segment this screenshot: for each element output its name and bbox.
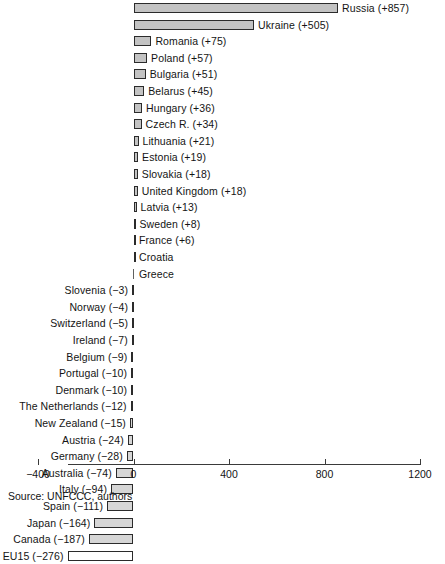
bar-row: Greece	[0, 266, 445, 283]
bar	[131, 401, 134, 411]
bar-label: Ireland (−7)	[73, 332, 128, 349]
bar	[134, 202, 137, 212]
bar-row: New Zealand (−15)	[0, 415, 445, 432]
bar	[134, 36, 152, 46]
bar-label: Hungary (+36)	[146, 100, 215, 117]
bar-label: Greece	[139, 266, 174, 283]
bar-label: Russia (+857)	[342, 0, 409, 17]
bar-row: Poland (+57)	[0, 50, 445, 67]
bar	[134, 20, 255, 30]
bar	[134, 186, 138, 196]
bar-label: The Netherlands (−12)	[19, 398, 126, 415]
bar	[89, 534, 134, 544]
bar-row: Slovakia (+18)	[0, 166, 445, 183]
plot-area: Russia (+857)Ukraine (+505)Romania (+75)…	[0, 0, 445, 460]
x-axis-tick-label: 1200	[408, 467, 431, 481]
bar-row: Russia (+857)	[0, 0, 445, 17]
bar	[132, 285, 134, 295]
bar-label: Estonia (+19)	[142, 149, 206, 166]
bar-row: Belarus (+45)	[0, 83, 445, 100]
bar	[134, 252, 136, 262]
bar-row: Estonia (+19)	[0, 149, 445, 166]
source-note: Source: UNFCCC, authors	[8, 489, 132, 503]
bar-row: Ukraine (+505)	[0, 17, 445, 34]
x-axis-line	[68, 464, 420, 465]
bar-label: Slovakia (+18)	[142, 166, 211, 183]
bar	[131, 385, 133, 395]
bar-label: Sweden (+8)	[139, 216, 200, 233]
bar-row: Belgium (−9)	[0, 349, 445, 366]
bar	[134, 86, 145, 96]
bar	[134, 152, 139, 162]
bar-row: France (+6)	[0, 232, 445, 249]
bar-label: Poland (+57)	[151, 50, 213, 67]
x-axis-tick	[325, 459, 326, 465]
bar-row: Norway (−4)	[0, 299, 445, 316]
bar-label: Norway (−4)	[69, 299, 128, 316]
bar	[134, 53, 148, 63]
bar	[134, 235, 136, 245]
bar	[134, 219, 136, 229]
bar-label: Canada (−187)	[13, 531, 85, 548]
bar-row: The Netherlands (−12)	[0, 398, 445, 415]
bar-row: Austria (−24)	[0, 432, 445, 449]
x-axis-tick-label: 0	[131, 467, 137, 481]
bar-row: Denmark (−10)	[0, 382, 445, 399]
bar-label: Belarus (+45)	[148, 83, 213, 100]
bar-label: Lithuania (+21)	[143, 133, 215, 150]
bar	[130, 418, 134, 428]
bar-row: Canada (−187)	[0, 531, 445, 548]
x-axis-tick-label: −400	[26, 467, 50, 481]
bar-row: Latvia (+13)	[0, 199, 445, 216]
bar-row: Slovenia (−3)	[0, 282, 445, 299]
bar-row: EU15 (−276)	[0, 548, 445, 564]
bar-row: Hungary (+36)	[0, 100, 445, 117]
bar-label: Switzerland (−5)	[50, 315, 128, 332]
bar-label: France (+6)	[139, 232, 195, 249]
bar-label: Romania (+75)	[155, 33, 226, 50]
bar	[134, 69, 146, 79]
bar-row: Portugal (−10)	[0, 365, 445, 382]
x-axis-tick	[38, 459, 39, 465]
bar-label: Bulgaria (+51)	[150, 66, 218, 83]
bar-row: Bulgaria (+51)	[0, 66, 445, 83]
bar	[134, 119, 142, 129]
bar	[132, 318, 134, 328]
bar	[133, 269, 135, 279]
bar	[134, 3, 339, 13]
bar-row: Sweden (+8)	[0, 216, 445, 233]
bar-row: Lithuania (+21)	[0, 133, 445, 150]
bar-label: Ukraine (+505)	[258, 17, 329, 34]
bar-label: Slovenia (−3)	[65, 282, 128, 299]
bar-label: Latvia (+13)	[141, 199, 198, 216]
bar	[128, 435, 134, 445]
x-axis-tick	[229, 459, 230, 465]
bar-label: EU15 (−276)	[3, 548, 64, 564]
bar	[132, 302, 134, 312]
bar-label: Denmark (−10)	[56, 382, 128, 399]
bar	[134, 103, 143, 113]
bar-label: Belgium (−9)	[66, 349, 127, 366]
x-axis-tick	[134, 459, 135, 465]
bar-label: Austria (−24)	[62, 432, 124, 449]
bar-row: Japan (−164)	[0, 515, 445, 532]
x-axis-tick-label: 800	[316, 467, 334, 481]
bar-row: Croatia	[0, 249, 445, 266]
bar-label: Japan (−164)	[27, 515, 90, 532]
bar	[94, 518, 133, 528]
bar	[134, 169, 138, 179]
bar	[131, 352, 133, 362]
bar	[131, 368, 133, 378]
bar-label: Portugal (−10)	[59, 365, 127, 382]
bar-label: New Zealand (−15)	[35, 415, 126, 432]
bar-row: Czech R. (+34)	[0, 116, 445, 133]
bar-label: Croatia	[139, 249, 174, 266]
x-axis-tick-label: 400	[220, 467, 238, 481]
bar-row: United Kingdom (+18)	[0, 183, 445, 200]
bar-label: United Kingdom (+18)	[142, 183, 246, 200]
bar-label: Czech R. (+34)	[146, 116, 218, 133]
x-axis-tick	[420, 459, 421, 465]
bar-row: Romania (+75)	[0, 33, 445, 50]
bar	[68, 551, 134, 561]
